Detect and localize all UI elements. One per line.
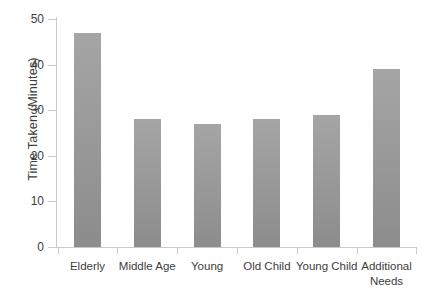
- x-tick-mark: [177, 247, 178, 254]
- x-axis-line: [56, 247, 416, 248]
- y-tick-mark: [48, 247, 56, 248]
- x-tick-mark: [357, 247, 358, 254]
- bar-chart: Time Taken (Minutes) 01020304050 Elderly…: [0, 0, 428, 299]
- bar: [134, 119, 161, 247]
- y-tick-mark: [48, 156, 56, 157]
- x-axis-category-label: Young Child: [293, 259, 361, 274]
- x-axis-category-label: Additional Needs: [353, 259, 421, 288]
- x-tick-mark: [297, 247, 298, 254]
- y-tick-label: 20: [2, 150, 44, 162]
- y-tick-label: 0: [2, 241, 44, 253]
- bar: [253, 119, 280, 247]
- x-tick-mark: [237, 247, 238, 254]
- x-tick-mark: [416, 247, 417, 254]
- y-tick-label: 50: [2, 13, 44, 25]
- x-axis-category-label: Elderly: [54, 259, 122, 274]
- x-tick-mark: [117, 247, 118, 254]
- y-tick-mark: [48, 110, 56, 111]
- y-tick-mark: [48, 19, 56, 20]
- y-tick-label: 40: [2, 59, 44, 71]
- y-tick-label: 10: [2, 195, 44, 207]
- bar: [74, 33, 101, 247]
- x-axis-category-label: Old Child: [233, 259, 301, 274]
- plot-area: [56, 19, 415, 247]
- x-axis-category-label: Middle Age: [113, 259, 181, 274]
- bar: [313, 115, 340, 247]
- x-axis-category-label: Young: [173, 259, 241, 274]
- bar: [373, 69, 400, 247]
- y-tick-mark: [48, 65, 56, 66]
- x-tick-mark: [58, 247, 59, 254]
- y-tick-mark: [48, 201, 56, 202]
- y-tick-label: 30: [2, 104, 44, 116]
- bar: [194, 124, 221, 247]
